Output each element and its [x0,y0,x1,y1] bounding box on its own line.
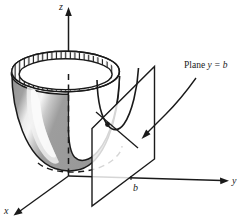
plane-annotation-equation: y = b [207,60,227,70]
figure-canvas: z x y b Plane y = b [0,0,246,224]
plane-annotation-label: Plane y = b [184,61,228,71]
axis-y-arrowhead [220,177,229,184]
plane-annotation-prefix: Plane [184,60,205,70]
axis-label-y: y [232,176,236,186]
rim-inner-ellipse [19,59,112,90]
axis-label-z: z [59,2,63,12]
tick-label-b: b [133,183,138,193]
axis-x [14,176,69,216]
axis-z-arrowhead [65,7,72,16]
diagram-svg [0,0,246,224]
axis-label-x: x [4,206,8,216]
axis-x-arrowhead [14,208,23,216]
